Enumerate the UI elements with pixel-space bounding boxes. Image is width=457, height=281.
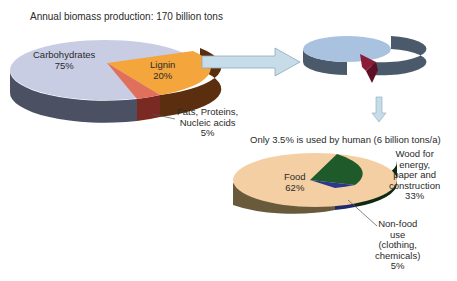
pie-human-share bbox=[303, 36, 426, 83]
label-lignin-name: Lignin bbox=[150, 60, 175, 71]
label-wood-pct: 33% bbox=[389, 191, 440, 202]
label-fats-pct: 5% bbox=[177, 128, 238, 139]
middle-caption: Only 3.5% is used by human (6 billion to… bbox=[250, 135, 441, 146]
label-nonfood-line1: Non-food bbox=[375, 219, 420, 230]
label-fats: Fats, Proteins, Nucleic acids 5% bbox=[177, 107, 238, 139]
label-food: Food 62% bbox=[284, 172, 306, 193]
label-carbohydrates-name: Carbohydrates bbox=[33, 50, 95, 61]
arrow-down-icon bbox=[372, 97, 386, 122]
label-nonfood-pct: 5% bbox=[375, 261, 420, 272]
label-food-pct: 62% bbox=[284, 183, 306, 194]
label-food-name: Food bbox=[284, 172, 306, 183]
chart-title: Annual biomass production: 170 billion t… bbox=[30, 12, 223, 23]
label-carbohydrates: Carbohydrates 75% bbox=[33, 50, 95, 71]
pie-human-use bbox=[233, 153, 397, 226]
label-nonfood: Non-food use (clothing, chemicals) 5% bbox=[375, 219, 420, 272]
label-wood-line1: Wood for bbox=[389, 149, 440, 160]
label-lignin: Lignin 20% bbox=[150, 60, 175, 81]
label-fats-line1: Fats, Proteins, bbox=[177, 107, 238, 118]
label-nonfood-line3: (clothing, bbox=[375, 240, 420, 251]
label-lignin-pct: 20% bbox=[150, 71, 175, 82]
label-carbohydrates-pct: 75% bbox=[33, 61, 95, 72]
label-wood: Wood for energy, paper and construction … bbox=[389, 149, 440, 202]
label-wood-line3: paper and bbox=[389, 170, 440, 181]
